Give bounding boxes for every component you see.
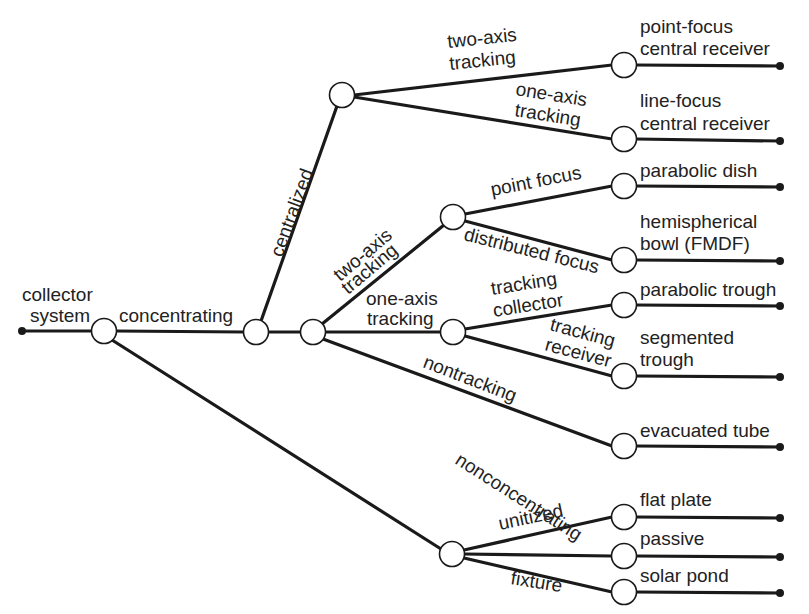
start-dot-icon (18, 327, 26, 335)
leaf-node-circle-icon (612, 364, 637, 389)
leaf-tail (636, 260, 780, 261)
collector-system-tree-diagram: collector system concentrating centraliz… (0, 0, 809, 614)
leaf-node-circle-icon (612, 580, 637, 605)
leaf-label-line1: point-focus (640, 16, 733, 37)
label-fixture: fixture (509, 567, 563, 596)
leaf-node-circle-icon (612, 434, 637, 459)
leaf-node-circle-icon (612, 127, 637, 152)
leaf-tail (636, 376, 780, 377)
label-nonconcentrating: nonconcentrating (452, 449, 586, 545)
label-concentrating: concentrating (119, 305, 233, 326)
leaf-tail (636, 305, 780, 306)
end-dot-icon (776, 443, 784, 451)
leaf-label-line1: line-focus (640, 90, 721, 111)
leaf-tail (636, 446, 780, 447)
leaf-tail (636, 65, 780, 66)
root-label-line1: collector (22, 284, 93, 305)
end-dot-icon (776, 257, 784, 265)
node-distributed-circle-icon (301, 320, 326, 345)
leaf-label-line1: evacuated tube (640, 420, 770, 441)
node-one-axis-circle-icon (441, 320, 466, 345)
leaf-label-line1: flat plate (640, 489, 712, 510)
leaf-label-line2: central receiver (640, 38, 771, 59)
leaf-tail (636, 556, 780, 557)
edge-concentrating (116, 331, 244, 332)
edge-passive (464, 554, 612, 556)
label-one-axis-line1: one-axis (366, 288, 438, 309)
leaf-labels: point-focus central receiver line-focus … (640, 16, 776, 586)
end-dot-icon (776, 514, 784, 522)
node-centralized-circle-icon (330, 83, 355, 108)
end-dot-icon (776, 137, 784, 145)
leaf-node-circle-icon (612, 174, 637, 199)
leaf-label-line2: trough (640, 349, 694, 370)
leaf-node-circle-icon (612, 53, 637, 78)
leaf-label-line2: central receiver (640, 113, 771, 134)
leaf-node-circle-icon (612, 544, 637, 569)
leaf-label-line2: bowl (FMDF) (640, 233, 750, 254)
leaf-label-line1: segmented (640, 327, 734, 348)
tree-svg: collector system concentrating centraliz… (0, 0, 809, 614)
end-dot-icon (776, 62, 784, 70)
leaf-label-line1: passive (640, 528, 704, 549)
node-root-circle-icon (92, 319, 117, 344)
edge-nonconcentrating (112, 340, 441, 549)
leaf-label-line1: solar pond (640, 565, 729, 586)
end-dot-icon (776, 553, 784, 561)
end-dot-icon (776, 373, 784, 381)
leaf-label-line1: parabolic trough (640, 279, 776, 300)
label-nontracking: nontracking (421, 351, 520, 406)
leaf-node-circle-icon (612, 293, 637, 318)
leaf-node-circle-icon (612, 505, 637, 530)
end-dot-icon (776, 302, 784, 310)
root-label-line2: system (30, 305, 90, 326)
leaf-tail (636, 186, 780, 187)
leaf-tail (636, 592, 780, 593)
node-concentrating-circle-icon (244, 320, 269, 345)
end-dot-icon (776, 183, 784, 191)
leaf-tail (636, 517, 780, 518)
leaf-tail (636, 139, 780, 141)
leaf-node-circle-icon (612, 248, 637, 273)
end-dot-icon (776, 589, 784, 597)
node-nonconcentrating-circle-icon (440, 542, 465, 567)
leaf-label-line1: parabolic dish (640, 160, 757, 181)
leaf-label-line1: hemispherical (640, 211, 757, 232)
node-two-axis-circle-icon (441, 205, 466, 230)
label-one-axis-line2: tracking (367, 308, 434, 329)
label-centralized: centralized (266, 166, 317, 260)
branch-labels: collector system concentrating centraliz… (22, 24, 618, 596)
